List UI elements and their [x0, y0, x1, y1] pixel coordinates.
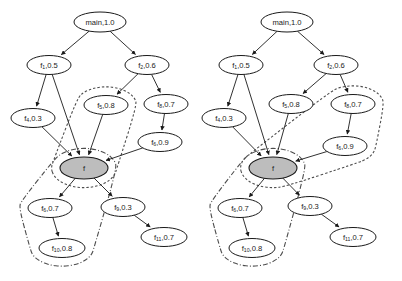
left-panel-node-f2[interactable]: f2,0.6	[125, 56, 169, 75]
left-panel-node-f[interactable]: f	[60, 157, 108, 179]
left-panel-edge-f8-to-f6	[162, 113, 165, 130]
right-panel-node-f4[interactable]: f4,0.3	[202, 109, 246, 128]
call-graph-figure: main,1.0f1,0.5f2,0.6f4,0.3f5,0.8f8,0.7f6…	[0, 0, 402, 281]
right-panel-node-f10[interactable]: f10,0.8	[229, 239, 275, 258]
right-panel-edge-main-to-f1	[252, 31, 277, 54]
left-panel-node-f6b[interactable]: f6,0.7	[28, 199, 72, 218]
right-panel-node-f1[interactable]: f1,0.5	[219, 56, 263, 75]
right-panel-node-f6b[interactable]: f6,0.7	[218, 199, 262, 218]
left-panel-edge-f-to-f6b	[59, 178, 75, 197]
left-panel-edge-f2-to-f5	[117, 74, 138, 95]
left-panel-node-f10[interactable]: f10,0.8	[39, 239, 85, 258]
right-panel-edge-f2-to-f8	[340, 74, 348, 92]
left-panel-node-f1[interactable]: f1,0.5	[27, 56, 71, 75]
left-panel-node-f5[interactable]: f5,0.8	[84, 96, 128, 115]
right-panel-node-label-main: main,1.0	[272, 18, 301, 27]
left-panel-edge-f6-to-f	[106, 148, 143, 161]
left-panel-edge-main-to-f2	[110, 31, 135, 54]
right-panel-edge-f9-to-f11	[321, 214, 339, 227]
right-panel-edge-f-to-f9	[283, 178, 300, 195]
left-panel-node-f8[interactable]: f8,0.7	[144, 95, 188, 114]
left-panel-edge-f1-to-f4	[37, 74, 47, 106]
left-panel-node-f6[interactable]: f6,0.9	[138, 133, 182, 152]
right-panel-edge-f2-to-f5	[303, 74, 326, 94]
right-panel-edge-f-to-f6b	[249, 178, 264, 197]
left-panel-edge-f2-to-f8	[152, 74, 161, 92]
left-panel-edge-main-to-f1	[61, 31, 89, 55]
left-panel-edge-f5-to-f	[89, 114, 103, 154]
right-panel-node-f6[interactable]: f6,0.9	[323, 137, 367, 156]
right-panel-node-f8[interactable]: f8,0.7	[331, 95, 375, 114]
left-panel-node-main[interactable]: main,1.0	[74, 12, 126, 32]
node-layer: main,1.0f1,0.5f2,0.6f4,0.3f5,0.8f8,0.7f6…	[11, 12, 376, 258]
right-panel-node-f9[interactable]: f9,0.3	[288, 197, 332, 216]
left-panel-node-f11[interactable]: f11,0.7	[141, 228, 187, 247]
left-panel-node-f4[interactable]: f4,0.3	[11, 109, 55, 128]
left-panel-node-label-main: main,1.0	[85, 18, 114, 27]
right-panel-edge-f8-to-f6	[347, 113, 351, 134]
right-panel-edge-f1-to-f4	[228, 74, 238, 106]
right-panel-edge-f4-to-f	[233, 127, 262, 156]
left-panel-node-f9[interactable]: f9,0.3	[101, 198, 145, 217]
left-panel-edge-f6b-to-f10	[53, 217, 59, 236]
right-panel-edge-f6-to-f	[296, 151, 327, 161]
left-panel-edge-f9-to-f11	[134, 215, 150, 227]
right-panel-node-f11[interactable]: f11,0.7	[330, 228, 376, 247]
left-panel-edge-f1-to-f	[52, 74, 79, 154]
left-panel-edge-f4-to-f	[42, 127, 72, 156]
right-panel-node-f5[interactable]: f5,0.8	[269, 95, 313, 114]
right-panel-edge-f5-to-f	[277, 113, 289, 154]
right-panel-node-f[interactable]: f	[249, 157, 297, 179]
right-panel-edge-f6b-to-f10	[243, 217, 249, 236]
right-panel-edge-main-to-f2	[297, 31, 324, 54]
diagram-canvas: main,1.0f1,0.5f2,0.6f4,0.3f5,0.8f8,0.7f6…	[0, 0, 402, 281]
right-panel-node-f2[interactable]: f2,0.6	[314, 56, 358, 75]
right-panel-node-main[interactable]: main,1.0	[261, 12, 313, 32]
